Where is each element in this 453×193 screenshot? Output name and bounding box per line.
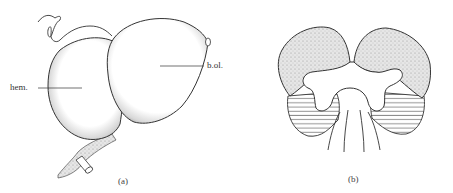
tract-line-3 bbox=[360, 110, 364, 152]
caption-b: (b) bbox=[348, 174, 359, 184]
brain-section-drawing bbox=[230, 0, 453, 193]
brain-lateral-drawing bbox=[0, 0, 230, 193]
caption-a: (a) bbox=[118, 176, 128, 186]
panel-b: (b) bbox=[230, 0, 453, 193]
label-bol: b.ol. bbox=[207, 60, 223, 70]
tract-line-2 bbox=[344, 110, 348, 152]
bulb-tip bbox=[206, 38, 211, 46]
panel-a: hem. b.ol. (a) bbox=[0, 0, 230, 193]
label-hem: hem. bbox=[10, 82, 28, 92]
olfactory-bulb bbox=[107, 19, 208, 124]
